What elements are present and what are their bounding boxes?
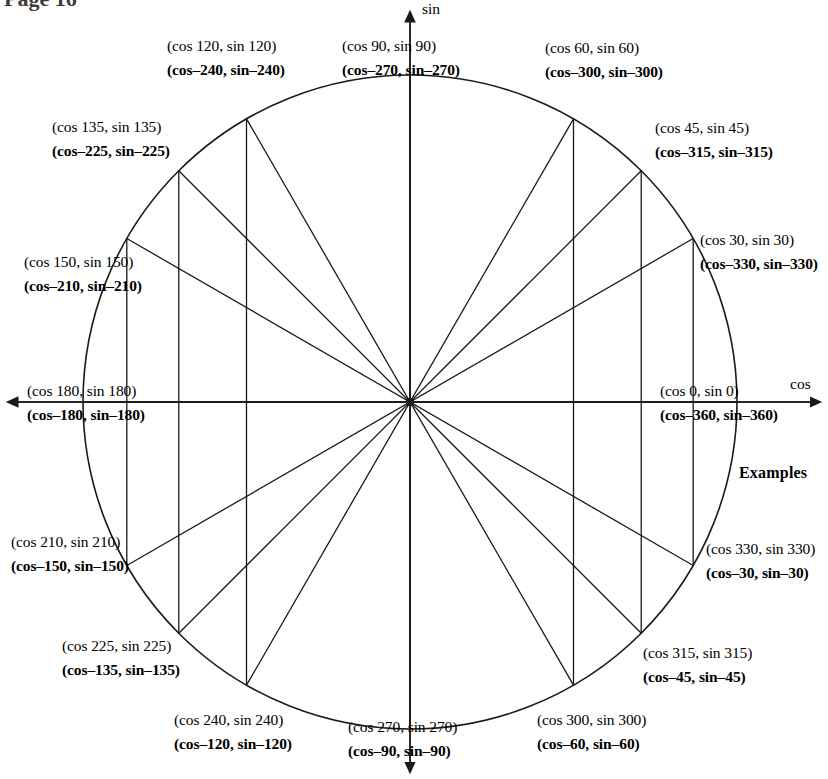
x-axis-label: cos (790, 375, 811, 393)
point-label-45: (cos 45, sin 45)(cos–315, sin–315) (655, 120, 773, 161)
point-label-primary-45: (cos 45, sin 45) (655, 120, 773, 136)
point-label-270: (cos 270, sin 270)(cos–90, sin–90) (348, 719, 457, 760)
point-label-primary-0: (cos 0, sin 0) (660, 383, 778, 399)
point-label-secondary-120: (cos–240, sin–240) (167, 62, 285, 78)
point-label-secondary-240: (cos–120, sin–120) (174, 736, 292, 752)
point-label-secondary-270: (cos–90, sin–90) (348, 743, 457, 759)
point-label-primary-330: (cos 330, sin 330) (706, 541, 815, 557)
y-axis-label: sin (422, 0, 440, 18)
point-label-secondary-0: (cos–360, sin–360) (660, 407, 778, 423)
point-label-primary-300: (cos 300, sin 300) (537, 712, 646, 728)
examples-label: Examples (739, 464, 807, 482)
point-label-primary-150: (cos 150, sin 150) (24, 254, 142, 270)
point-label-primary-135: (cos 135, sin 135) (52, 119, 170, 135)
point-label-secondary-150: (cos–210, sin–210) (24, 278, 142, 294)
point-label-primary-60: (cos 60, sin 60) (545, 40, 663, 56)
point-label-secondary-225: (cos–135, sin–135) (62, 662, 180, 678)
point-label-primary-90: (cos 90, sin 90) (342, 38, 460, 54)
point-label-60: (cos 60, sin 60)(cos–300, sin–300) (545, 40, 663, 81)
point-label-120: (cos 120, sin 120)(cos–240, sin–240) (167, 38, 285, 79)
point-label-90: (cos 90, sin 90)(cos–270, sin–270) (342, 38, 460, 79)
point-label-primary-270: (cos 270, sin 270) (348, 719, 457, 735)
point-label-secondary-330: (cos–30, sin–30) (706, 565, 815, 581)
point-label-primary-210: (cos 210, sin 210) (11, 534, 129, 550)
point-label-135: (cos 135, sin 135)(cos–225, sin–225) (52, 119, 170, 160)
point-label-secondary-315: (cos–45, sin–45) (643, 669, 752, 685)
point-label-300: (cos 300, sin 300)(cos–60, sin–60) (537, 712, 646, 753)
point-label-330: (cos 330, sin 330)(cos–30, sin–30) (706, 541, 815, 582)
point-label-150: (cos 150, sin 150)(cos–210, sin–210) (24, 254, 142, 295)
point-label-315: (cos 315, sin 315)(cos–45, sin–45) (643, 645, 752, 686)
point-label-secondary-90: (cos–270, sin–270) (342, 62, 460, 78)
point-label-0: (cos 0, sin 0)(cos–360, sin–360) (660, 383, 778, 424)
point-label-secondary-180: (cos–180, sin–180) (27, 407, 145, 423)
point-label-secondary-60: (cos–300, sin–300) (545, 64, 663, 80)
point-label-secondary-210: (cos–150, sin–150) (11, 558, 129, 574)
point-label-240: (cos 240, sin 240)(cos–120, sin–120) (174, 712, 292, 753)
unit-circle-figure: Page 16 cos sin Examples (cos 0, sin 0)(… (0, 0, 828, 779)
point-label-180: (cos 180, sin 180)(cos–180, sin–180) (27, 383, 145, 424)
origin-point (406, 398, 414, 406)
point-label-primary-315: (cos 315, sin 315) (643, 645, 752, 661)
point-label-primary-30: (cos 30, sin 30) (700, 232, 818, 248)
point-label-secondary-45: (cos–315, sin–315) (655, 144, 773, 160)
point-label-secondary-300: (cos–60, sin–60) (537, 736, 646, 752)
point-label-210: (cos 210, sin 210)(cos–150, sin–150) (11, 534, 129, 575)
point-label-225: (cos 225, sin 225)(cos–135, sin–135) (62, 638, 180, 679)
point-label-primary-120: (cos 120, sin 120) (167, 38, 285, 54)
point-label-secondary-135: (cos–225, sin–225) (52, 143, 170, 159)
point-label-primary-180: (cos 180, sin 180) (27, 383, 145, 399)
point-label-secondary-30: (cos–330, sin–330) (700, 256, 818, 272)
point-label-primary-240: (cos 240, sin 240) (174, 712, 292, 728)
point-label-30: (cos 30, sin 30)(cos–330, sin–330) (700, 232, 818, 273)
point-label-primary-225: (cos 225, sin 225) (62, 638, 180, 654)
